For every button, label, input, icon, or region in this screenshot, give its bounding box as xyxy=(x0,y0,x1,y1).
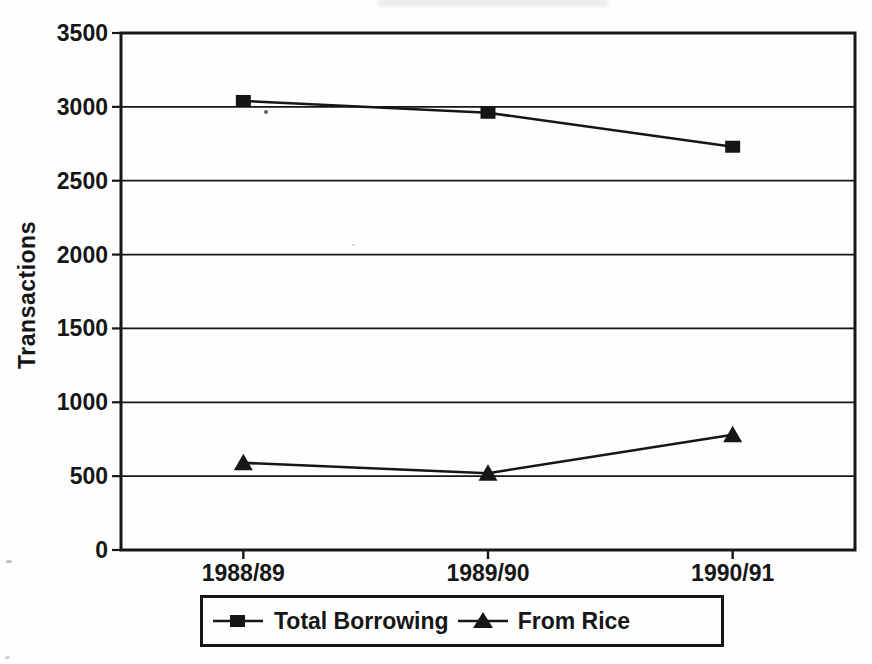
square-marker-icon xyxy=(212,611,264,631)
data-point-square-total-borrowing xyxy=(481,107,496,119)
y-tick-label: 3000 xyxy=(57,94,108,120)
data-point-square-total-borrowing xyxy=(236,95,251,107)
x-tick-label: 1989/90 xyxy=(446,560,529,586)
y-tick-label: 1500 xyxy=(57,315,108,341)
chart-legend: Total Borrowing From Rice xyxy=(200,595,724,647)
y-tick-label: 500 xyxy=(70,463,108,489)
y-tick-label: 2500 xyxy=(57,168,108,194)
y-tick-label: 1000 xyxy=(57,389,108,415)
data-point-square-total-borrowing xyxy=(725,141,740,153)
triangle-marker-icon xyxy=(458,611,508,631)
x-tick-label: 1990/91 xyxy=(691,560,774,586)
x-tick-label: 1988/89 xyxy=(202,560,285,586)
chart-plot-area: 05001000150020002500300035001988/891989/… xyxy=(0,0,872,664)
data-point-triangle-from-rice xyxy=(723,426,742,443)
legend-entry-from-rice: From Rice xyxy=(458,608,630,635)
y-tick-label: 0 xyxy=(95,537,108,563)
legend-label-total-borrowing: Total Borrowing xyxy=(274,608,449,635)
legend-label-from-rice: From Rice xyxy=(518,608,630,635)
legend-entry-total-borrowing: Total Borrowing xyxy=(212,608,449,635)
scanned-line-chart-figure: Transactions 050010001500200025003000350… xyxy=(0,0,872,664)
y-tick-label: 2000 xyxy=(57,242,108,268)
y-tick-label: 3500 xyxy=(57,20,108,46)
